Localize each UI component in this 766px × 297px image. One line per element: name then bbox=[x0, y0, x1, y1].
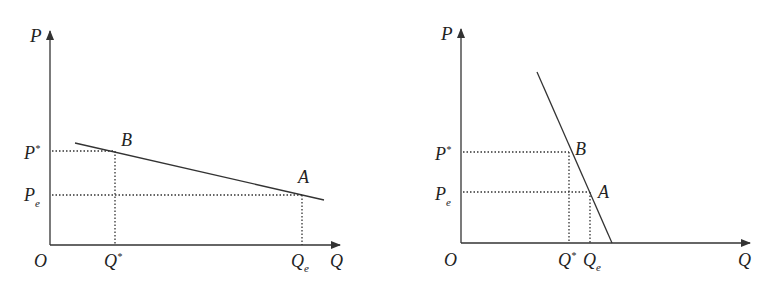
right-pe-label: Pe bbox=[434, 184, 451, 208]
right-qe-label: Qe bbox=[583, 250, 601, 273]
left-point-a-label: A bbox=[297, 167, 310, 187]
left-figure: P O Q B A P* Pe Q* Qe bbox=[23, 25, 343, 274]
diagram-canvas: P O Q B A P* Pe Q* Qe P O Q B A P* Pe Q*… bbox=[0, 0, 766, 297]
right-qstar-label: Q* bbox=[558, 250, 576, 270]
right-point-a-label: A bbox=[597, 182, 610, 202]
right-guides bbox=[463, 152, 590, 243]
left-pe-label: Pe bbox=[23, 185, 40, 209]
right-figure: P O Q B A P* Pe Q* Qe bbox=[434, 23, 751, 273]
left-origin-label: O bbox=[34, 251, 47, 271]
left-x-label: Q bbox=[330, 251, 343, 271]
right-x-label: Q bbox=[738, 250, 751, 270]
left-guides bbox=[52, 151, 302, 245]
right-point-b-label: B bbox=[575, 139, 586, 159]
left-point-b-label: B bbox=[121, 130, 132, 150]
left-y-label: P bbox=[29, 25, 42, 46]
right-y-label: P bbox=[440, 23, 453, 44]
left-qe-label: Qe bbox=[291, 251, 309, 274]
right-pstar-label: P* bbox=[434, 144, 451, 164]
left-qstar-label: Q* bbox=[104, 251, 122, 271]
right-origin-label: O bbox=[444, 250, 457, 270]
left-pstar-label: P* bbox=[23, 143, 40, 163]
